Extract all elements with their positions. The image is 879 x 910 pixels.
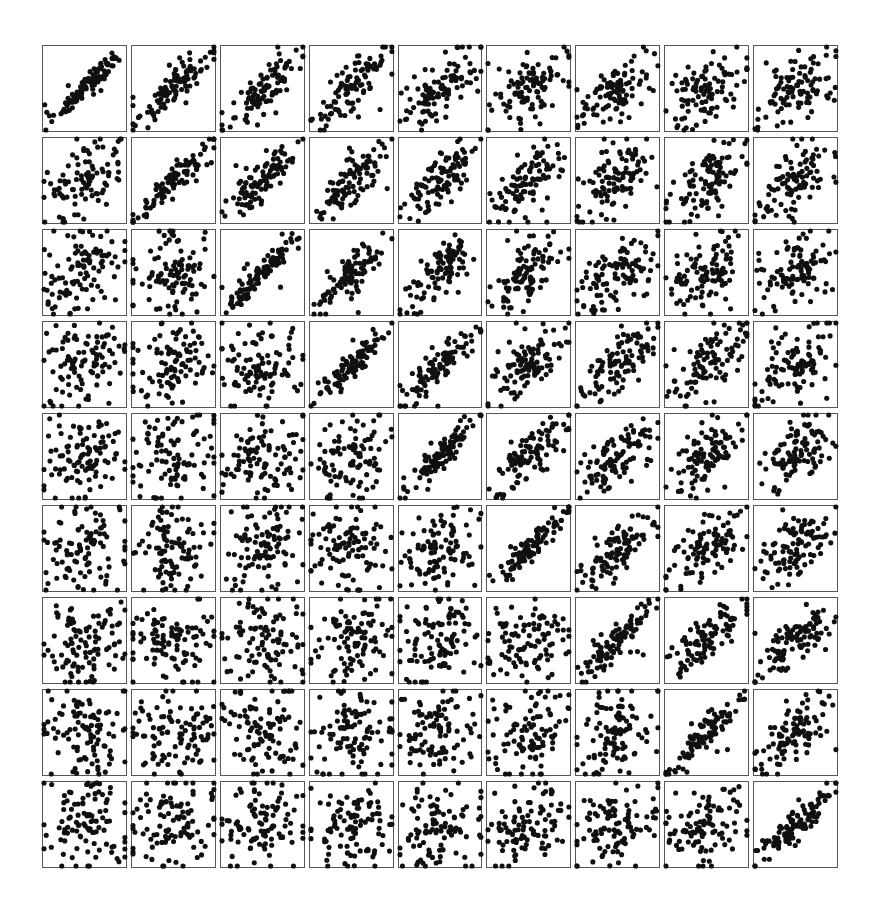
data-point (538, 121, 543, 126)
data-point (709, 61, 714, 66)
data-point (163, 78, 168, 83)
data-point (745, 604, 750, 609)
data-point (795, 432, 800, 437)
data-point (111, 734, 116, 739)
data-point (181, 274, 186, 279)
data-point (228, 471, 233, 476)
data-point (94, 170, 99, 175)
splom-point-cloud (399, 506, 482, 591)
data-point (407, 760, 412, 765)
splom-panel-r1-c2 (131, 45, 216, 132)
data-point (235, 453, 240, 458)
data-point (703, 119, 708, 124)
data-point (814, 287, 819, 292)
splom-point-cloud (132, 690, 215, 775)
data-point (370, 812, 375, 817)
data-point (421, 381, 426, 386)
data-point (690, 127, 695, 132)
data-point (576, 665, 581, 670)
data-point (366, 621, 371, 626)
data-point (567, 247, 572, 252)
data-point (87, 660, 92, 665)
data-point (294, 604, 299, 609)
data-point (434, 464, 439, 469)
data-point (68, 671, 73, 676)
data-point (238, 676, 243, 681)
data-point (160, 504, 165, 509)
data-point (378, 762, 383, 767)
data-point (443, 716, 448, 721)
data-point (621, 332, 626, 337)
data-point (455, 45, 460, 50)
data-point (803, 73, 808, 78)
data-point (446, 615, 451, 620)
data-point (423, 97, 428, 102)
data-point (680, 104, 685, 109)
data-point (365, 848, 370, 853)
data-point (683, 639, 688, 644)
data-point (463, 522, 468, 527)
data-point (745, 504, 750, 509)
data-point (232, 689, 237, 694)
data-point (222, 382, 227, 387)
data-point (418, 310, 423, 315)
data-point (730, 846, 735, 851)
data-point (409, 806, 414, 811)
data-point (278, 58, 283, 63)
data-point (122, 459, 127, 464)
data-point (444, 637, 449, 642)
data-point (478, 663, 483, 668)
splom-panel-r1-c4 (309, 45, 394, 132)
data-point (592, 106, 597, 111)
data-point (620, 363, 625, 368)
data-point (149, 523, 154, 528)
data-point (700, 290, 705, 295)
data-point (64, 688, 69, 693)
data-point (41, 403, 46, 408)
data-point (800, 700, 805, 705)
data-point (404, 629, 409, 634)
data-point (693, 840, 698, 845)
data-point (44, 833, 49, 838)
data-point (583, 573, 588, 578)
splom-point-cloud (487, 506, 570, 591)
data-point (175, 239, 180, 244)
data-point (317, 302, 322, 307)
data-point (51, 557, 56, 562)
data-point (63, 679, 68, 684)
data-point (90, 174, 95, 179)
data-point (360, 553, 365, 558)
splom-panel-r1-c6 (486, 45, 571, 132)
data-point (91, 541, 96, 546)
data-point (513, 799, 518, 804)
data-point (728, 306, 733, 311)
data-point (264, 780, 269, 785)
data-point (807, 339, 812, 344)
data-point (265, 253, 270, 258)
data-point (348, 109, 353, 114)
data-point (242, 266, 247, 271)
data-point (729, 346, 734, 351)
data-point (567, 804, 572, 809)
data-point (624, 158, 629, 163)
data-point (293, 611, 298, 616)
data-point (219, 209, 224, 214)
data-point (352, 162, 357, 167)
data-point (471, 660, 476, 665)
data-point (192, 341, 197, 346)
splom-panel-r5-c2 (131, 413, 216, 500)
data-point (522, 273, 527, 278)
data-point (97, 320, 102, 325)
data-point (797, 554, 802, 559)
data-point (529, 455, 534, 460)
data-point (466, 44, 471, 49)
splom-point-cloud (310, 230, 393, 315)
data-point (262, 487, 267, 492)
data-point (249, 653, 254, 658)
data-point (345, 811, 350, 816)
data-point (415, 219, 420, 224)
data-point (104, 647, 109, 652)
data-point (250, 669, 255, 674)
data-point (159, 449, 164, 454)
data-point (702, 92, 707, 97)
